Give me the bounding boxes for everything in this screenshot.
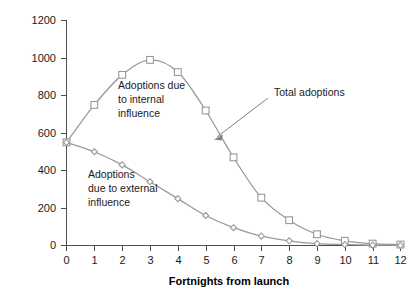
y-tick-label-200: 200 [38, 202, 56, 214]
annotation-internal-line1: Adoptions due [118, 79, 185, 91]
y-tick-label-0: 0 [50, 239, 56, 251]
annotation-internal-line3: influence [118, 107, 160, 119]
y-tick-label-600: 600 [38, 127, 56, 139]
x-tick-label-10: 10 [339, 254, 351, 266]
x-tick-label-7: 7 [258, 254, 264, 266]
x-tick-label-12: 12 [394, 254, 406, 266]
annotation-internal-line2: to internal [118, 93, 164, 105]
x-tick-label-3: 3 [147, 254, 153, 266]
x-tick-label-2: 2 [119, 254, 125, 266]
data-point-marker [119, 71, 126, 78]
data-point-marker [174, 69, 181, 76]
y-tick-label-1200: 1200 [32, 14, 56, 26]
data-point-marker [91, 101, 98, 108]
data-point-marker [286, 217, 293, 224]
x-tick-label-6: 6 [231, 254, 237, 266]
data-point-marker [230, 154, 237, 161]
x-axis-title: Fortnights from launch [169, 275, 290, 287]
line-chart: 0 200 400 600 800 1000 1200 0 [0, 0, 409, 299]
data-point-marker [314, 231, 321, 238]
data-point-marker [258, 194, 265, 201]
x-tick-label-11: 11 [368, 254, 379, 266]
annotation-external-line3: influence [88, 196, 130, 208]
x-tick-label-4: 4 [175, 254, 181, 266]
x-tick-label-0: 0 [63, 254, 69, 266]
y-tick-label-1000: 1000 [32, 52, 56, 64]
annotation-total-line1: Total adoptions [274, 86, 345, 98]
data-point-marker [147, 56, 154, 63]
x-tick-label-9: 9 [314, 254, 320, 266]
chart-container: 0 200 400 600 800 1000 1200 0 [0, 0, 409, 299]
y-tick-label-800: 800 [38, 89, 56, 101]
x-tick-label-8: 8 [286, 254, 292, 266]
data-point-marker [202, 107, 209, 114]
y-tick-label-400: 400 [38, 164, 56, 176]
annotation-external-line2: due to external [88, 182, 157, 194]
annotation-external-line1: Adoptions [88, 168, 135, 180]
x-tick-label-5: 5 [203, 254, 209, 266]
annotation-total-adoptions: Total adoptions [274, 86, 345, 98]
x-tick-label-1: 1 [91, 254, 97, 266]
